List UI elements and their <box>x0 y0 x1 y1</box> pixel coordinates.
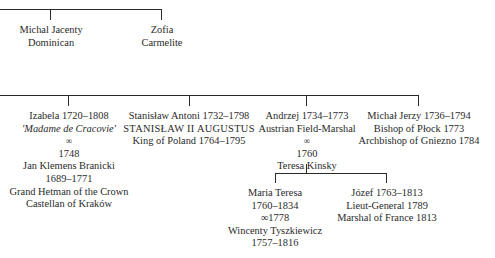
spouse-dates: 1689–1771 <box>10 173 129 186</box>
person-title: Marshal of France 1813 <box>337 212 437 225</box>
person-name: Maria Teresa <box>228 187 322 200</box>
gen3-drop-line-jozef <box>386 173 387 183</box>
gen2-drop-line-stanislaw <box>189 95 190 106</box>
person-name: Józef 1763–1813 <box>337 187 437 200</box>
gen3-horizontal-line <box>275 173 387 174</box>
person-maria-teresa: Maria Teresa 1760–1834 ∞1778 Wincenty Ty… <box>228 187 322 250</box>
spouse-title: Castellan of Kraków <box>10 198 129 211</box>
spouse-name: Wincenty Tyszkiewicz <box>228 225 322 238</box>
gen1-drop-line-michal <box>50 9 51 20</box>
marriage-symbol-icon: ∞ <box>258 135 355 148</box>
marriage-year: 1748 <box>10 148 129 161</box>
person-stanislaw-antoni: Stanisław Antoni 1732–1798 STANISŁAW II … <box>123 110 254 148</box>
gen3-drop-line-maria-teresa <box>275 173 276 183</box>
gen2-drop-line-andrzej <box>306 95 307 106</box>
person-title: Austrian Field-Marshal <box>258 123 355 136</box>
gen2-drop-line-michal-jerzy <box>418 95 419 106</box>
spouse-title: Grand Hetman of the Crown <box>10 186 129 199</box>
gen1-drop-line-zofia <box>161 9 162 20</box>
gen2-drop-line-izabela <box>68 95 69 106</box>
person-title: Lieut-General 1789 <box>337 200 437 213</box>
marriage-symbol-icon: ∞ <box>10 135 129 148</box>
person-izabela: Izabela 1720–1808 'Madame de Cracovie' ∞… <box>10 110 129 211</box>
person-nickname: 'Madame de Cracovie' <box>10 123 129 136</box>
gen1-horizontal-line <box>0 9 162 10</box>
person-title: Archbishop of Gniezno 1784 <box>359 135 480 148</box>
regnal-name: STANISŁAW II AUGUSTUS <box>123 123 254 136</box>
person-name: Michał Jerzy 1736–1794 <box>359 110 480 123</box>
person-name: Zofia <box>142 24 183 37</box>
person-michal-jerzy: Michał Jerzy 1736–1794 Bishop of Płock 1… <box>359 110 480 148</box>
person-dates: 1760–1834 <box>228 200 322 213</box>
person-title: Carmelite <box>142 37 183 50</box>
person-title: Dominican <box>19 37 82 50</box>
marriage-info: ∞1778 <box>228 212 322 225</box>
spouse-name: Jan Klemens Branicki <box>10 160 129 173</box>
person-title: Bishop of Płock 1773 <box>359 123 480 136</box>
person-title: King of Poland 1764–1795 <box>123 135 254 148</box>
person-michal-jacenty: Michal Jacenty Dominican <box>19 24 82 49</box>
person-name: Michal Jacenty <box>19 24 82 37</box>
person-jozef: Józef 1763–1813 Lieut-General 1789 Marsh… <box>337 187 437 225</box>
person-zofia: Zofia Carmelite <box>142 24 183 49</box>
person-name: Izabela 1720–1808 <box>10 110 129 123</box>
gen2-horizontal-line <box>0 95 419 96</box>
spouse-dates: 1757–1816 <box>228 237 322 250</box>
person-name: Stanisław Antoni 1732–1798 <box>123 110 254 123</box>
marriage-year: 1760 <box>258 148 355 161</box>
person-name: Andrzej 1734–1773 <box>258 110 355 123</box>
